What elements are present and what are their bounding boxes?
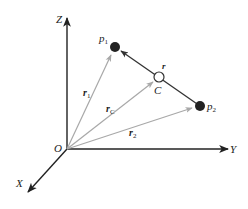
- p2-label: p2: [206, 100, 217, 114]
- point-center: [154, 72, 164, 82]
- center-of-mass-diagram: Z Y X O p1 p2 C r1 rC r2 r: [0, 0, 248, 209]
- x-axis: [28, 149, 67, 192]
- origin-label: O: [54, 142, 62, 154]
- x-axis-label: X: [15, 177, 24, 189]
- vector-r1: [67, 55, 111, 149]
- r2-label: r2: [129, 127, 137, 140]
- y-axis-label: Y: [230, 143, 238, 155]
- center-label: C: [154, 84, 162, 96]
- point-p1: [110, 42, 120, 52]
- z-axis-label: Z: [56, 13, 63, 25]
- point-p2: [195, 101, 205, 111]
- rc-label: rC: [106, 103, 115, 116]
- r1-label: r1: [83, 87, 91, 100]
- p1-label: p1: [98, 32, 109, 46]
- r-label: r: [162, 61, 166, 71]
